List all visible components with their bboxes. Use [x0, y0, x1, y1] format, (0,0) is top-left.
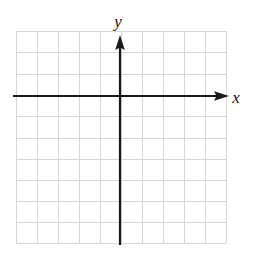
coordinate-grid-figure: y x: [0, 0, 254, 264]
y-axis: [115, 35, 125, 245]
coordinate-plane-svg: y x: [0, 0, 254, 264]
grid-vertical-lines: [17, 31, 227, 243]
y-axis-label: y: [112, 12, 122, 31]
x-axis-label: x: [231, 88, 240, 107]
